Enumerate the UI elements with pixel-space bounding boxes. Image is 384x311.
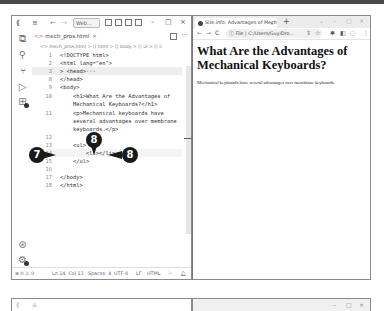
activity-bar: ⧉ ⚲ ⑂ ▷ ⊞ ⊛ ⚙: [12, 31, 32, 267]
page-heading: What Are the Advantages of Mechanical Ke…: [197, 44, 367, 72]
problems-indicator[interactable]: ⊗ 0 ⚠ 0: [15, 268, 34, 279]
reload-icon[interactable]: C: [215, 29, 219, 36]
side-panel-icon[interactable]: ◧: [340, 29, 346, 36]
line-number: 16: [32, 165, 52, 173]
line-number: 18: [32, 181, 52, 189]
code-line-folded: 3> <head>···: [32, 67, 182, 75]
update-badge: [24, 261, 29, 266]
browser-tab-strip: Site.info: Advantages of Mech... × + ⌄ –…: [193, 16, 370, 28]
browser-minimize-button[interactable]: –: [333, 301, 336, 308]
encoding[interactable]: UTF-8: [114, 268, 128, 279]
line-number: 1: [32, 51, 52, 59]
search-icon[interactable]: ⚲: [17, 49, 28, 60]
close-button[interactable]: ×: [180, 18, 186, 26]
line-number: 11: [32, 109, 52, 117]
line-number: 3: [32, 67, 52, 75]
breadcrumb[interactable]: <> mech_pros.html > ⟨⟩ html > ⟨⟩ body > …: [40, 44, 162, 49]
code-line-wrap: keyboards.</p>: [32, 125, 182, 133]
browser-tab[interactable]: Site.info: Advantages of Mech... ×: [195, 18, 277, 28]
editor-scrollbar[interactable]: [186, 66, 191, 234]
maximize-button[interactable]: □: [165, 18, 172, 26]
browser-toolbar: ← → C ⓘ File | C:/Users/Guy/Dro... ⇪ ☆ ✱…: [193, 28, 370, 40]
toggle-secondary-sidebar-icon[interactable]: [125, 19, 132, 26]
lower-browser-window: – □ ×: [192, 298, 371, 311]
line-code: </html>: [60, 182, 83, 188]
customize-layout-icon[interactable]: [135, 19, 142, 26]
browser-maximize-button[interactable]: □: [346, 301, 352, 308]
extensions-puzzle-icon[interactable]: ✱: [330, 29, 335, 36]
browser-close-button[interactable]: ×: [359, 17, 364, 24]
code-line: 2<html lang="en">: [32, 59, 182, 67]
run-debug-icon[interactable]: ▷: [17, 81, 28, 92]
web-page-content: What Are the Advantages of Mechanical Ke…: [197, 44, 367, 86]
menu-icon[interactable]: ≡: [32, 19, 38, 27]
code-line: 9<body>: [32, 83, 182, 91]
browser-maximize-button[interactable]: □: [346, 17, 352, 24]
code-line: 18</html>: [32, 181, 182, 189]
lower-vscode-window: ⟪ ≡: [11, 298, 192, 311]
line-number: 12: [32, 133, 52, 141]
browser-minimize-button[interactable]: –: [333, 17, 336, 24]
explorer-icon[interactable]: ⧉: [17, 33, 28, 44]
line-code: Mechanical Keyboards?</h1>: [60, 101, 157, 107]
browser-close-button[interactable]: ×: [359, 301, 364, 308]
editor-tab-row: <>mech_pros.html× ···: [32, 31, 191, 43]
browser-tab-close-icon[interactable]: ×: [270, 18, 274, 28]
line-code: </ul>: [60, 158, 89, 164]
code-line: 13 <ul>: [32, 141, 182, 149]
bookmark-star-icon[interactable]: ☆: [315, 29, 320, 36]
feedback-icon[interactable]: ⚐: [168, 268, 172, 279]
split-editor-icon[interactable]: [170, 33, 177, 40]
share-icon[interactable]: ⇪: [306, 29, 311, 36]
tab-close-icon[interactable]: ×: [92, 33, 97, 39]
cursor-position[interactable]: Ln 14, Col 13: [52, 268, 84, 279]
profile-icon[interactable]: ◌: [350, 29, 355, 36]
callout-7-pointer: [42, 151, 56, 159]
callout-8-right: 8: [122, 147, 138, 163]
line-number: 2: [32, 59, 52, 67]
line-code: keyboards.</p>: [60, 126, 118, 132]
html-file-icon: <>: [34, 33, 43, 39]
code-line: 16: [32, 165, 182, 173]
toggle-panel-icon[interactable]: [115, 19, 122, 26]
more-actions-icon[interactable]: ···: [181, 31, 188, 39]
manage-gear-icon[interactable]: ⚙: [17, 254, 28, 265]
search-label: Web...: [76, 19, 92, 27]
end-of-line[interactable]: LF: [136, 268, 141, 279]
line-code: > <head>···: [60, 68, 96, 74]
tab-search-chevron-icon[interactable]: ⌄: [319, 17, 324, 24]
code-line-wrap: Mechanical Keyboards?</h1>: [32, 100, 182, 108]
back-arrow-icon[interactable]: ←: [50, 19, 56, 27]
tab-label: mech_pros.html: [45, 33, 89, 39]
extensions-icon[interactable]: ⊞: [17, 96, 28, 107]
forward-arrow-icon[interactable]: →: [61, 19, 67, 27]
line-code: several advantages over membrane: [60, 118, 177, 124]
browser-back-icon[interactable]: ←: [197, 29, 202, 36]
vscode-title-bar: ⟪ ≡ ← → Web... – □ ×: [12, 16, 191, 31]
notifications-bell-icon[interactable]: 🔔︎: [180, 268, 186, 279]
globe-favicon-icon: [198, 21, 203, 26]
tab-mech-pros-html[interactable]: <>mech_pros.html×: [34, 33, 97, 39]
line-code: <li></li>: [60, 150, 115, 156]
source-control-icon[interactable]: ⑂: [17, 65, 28, 76]
language-mode[interactable]: HTML: [147, 268, 160, 279]
code-line: 12: [32, 133, 182, 141]
line-number: 9: [32, 83, 52, 91]
page-paragraph: Mechanical keyboards have several advant…: [197, 80, 367, 86]
new-tab-button[interactable]: +: [283, 17, 290, 26]
code-line: 1<!DOCTYPE html>: [32, 51, 182, 59]
account-icon[interactable]: ⊛: [17, 239, 28, 250]
browser-menu-icon[interactable]: ⋮: [363, 29, 369, 36]
menu-icon[interactable]: ≡: [32, 301, 37, 308]
code-editor[interactable]: 1<!DOCTYPE html> 2<html lang="en"> 3> <h…: [32, 51, 187, 267]
notification-badge: [24, 103, 29, 108]
code-line-wrap: several advantages over membrane: [32, 117, 182, 125]
line-code: <ul>: [60, 142, 86, 148]
browser-tab-title: Site.info: Advantages of Mech...: [205, 20, 277, 25]
indentation[interactable]: Spaces: 4: [88, 268, 111, 279]
code-line: 11 <p>Mechanical keyboards have: [32, 109, 182, 117]
command-center-search[interactable]: Web...: [73, 18, 100, 28]
browser-forward-icon[interactable]: →: [206, 29, 211, 36]
minimize-button[interactable]: –: [151, 18, 155, 26]
toggle-primary-sidebar-icon[interactable]: [105, 19, 112, 26]
